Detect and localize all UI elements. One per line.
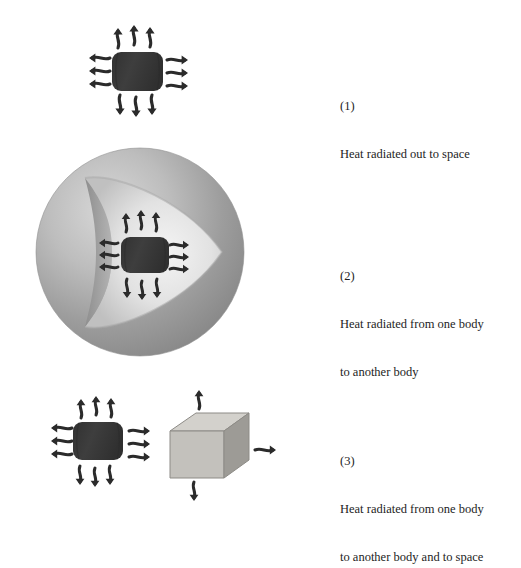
receiving-cube [170,413,249,478]
caption-1-line-1: Heat radiated out to space [340,146,470,162]
caption-3-index: (3) [340,453,484,469]
caption-3-line-2: to another body and to space [340,549,484,565]
caption-1: (1) Heat radiated out to space [340,66,470,178]
caption-3: (3) Heat radiated from one body to anoth… [340,421,484,568]
caption-3-line-1: Heat radiated from one body [340,501,484,517]
hot-body-panel-3 [73,422,123,460]
arrowheads-left [99,239,105,272]
arrowheads-right [183,241,189,274]
arrowheads-left [89,53,95,88]
hot-body-panel-1 [112,52,163,91]
caption-2: (2) Heat radiated from one body to anoth… [340,236,484,396]
caption-1-index: (1) [340,98,470,114]
caption-2-line-1: Heat radiated from one body [340,316,484,332]
arrowheads-right [182,55,188,90]
hot-body-panel-2 [121,237,169,273]
panel-2-diagram [36,148,244,356]
caption-2-index: (2) [340,268,484,284]
caption-2-line-2: to another body [340,364,484,380]
